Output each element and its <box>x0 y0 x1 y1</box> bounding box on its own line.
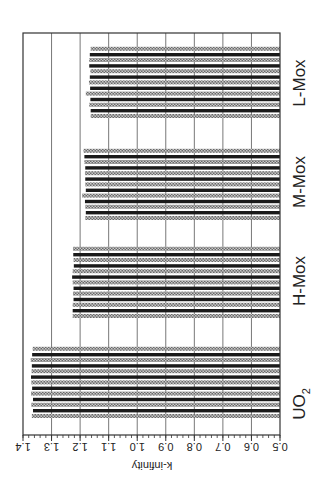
bar-h-mox <box>74 264 280 267</box>
bar-uo2 <box>33 347 280 351</box>
bar-h-mox <box>73 314 280 318</box>
bar-m-mox <box>85 216 280 220</box>
bar-m-mox <box>85 166 280 169</box>
bar-l-mox <box>90 87 280 90</box>
bar-uo2 <box>31 392 280 396</box>
bar-uo2 <box>31 375 280 378</box>
bar-h-mox <box>73 280 280 284</box>
tick-label: 0.7 <box>215 441 230 453</box>
bar-h-mox <box>73 303 280 307</box>
bar-l-mox <box>91 47 280 51</box>
y-axis-tick-labels: 1.41.31.21.11.00.90.80.70.60.5 <box>15 441 287 453</box>
bar-h-mox <box>72 275 280 278</box>
tick-label: 0.8 <box>187 441 202 453</box>
tick-label: 1.1 <box>101 441 116 453</box>
bar-h-mox <box>73 269 280 273</box>
bar-h-mox <box>73 247 280 251</box>
tick-label: 1.3 <box>44 441 59 453</box>
bars <box>31 47 280 418</box>
bar-m-mox <box>84 155 280 158</box>
bar-m-mox <box>82 194 280 198</box>
bar-uo2 <box>32 387 280 390</box>
bar-uo2 <box>33 409 280 412</box>
bar-l-mox <box>90 75 280 78</box>
bar-l-mox <box>89 103 280 107</box>
bar-uo2 <box>31 358 280 362</box>
bar-h-mox <box>74 298 280 301</box>
bar-m-mox <box>86 189 280 192</box>
bar-m-mox <box>85 205 280 209</box>
bar-uo2 <box>32 364 280 367</box>
bar-m-mox <box>85 171 280 175</box>
bar-h-mox <box>74 258 280 262</box>
category-label-l-mox: L-Mox <box>290 59 309 107</box>
bar-uo2 <box>31 380 280 384</box>
bar-h-mox <box>73 309 280 312</box>
bar-h-mox <box>73 253 280 256</box>
bar-l-mox <box>89 80 280 84</box>
bar-m-mox <box>86 211 280 214</box>
category-label-uo2: UO2 <box>290 388 312 420</box>
bar-m-mox <box>85 177 280 180</box>
bar-m-mox <box>84 149 280 153</box>
bar-uo2 <box>32 414 280 418</box>
tick-label: 1.2 <box>72 441 87 453</box>
category-label-m-mox: M-Mox <box>290 156 309 208</box>
rotated-chart: 1.41.31.21.11.00.90.80.70.60.5 k-infinit… <box>0 0 324 492</box>
bar-uo2 <box>31 403 280 407</box>
bar-l-mox <box>89 64 280 67</box>
tick-label: 1.4 <box>15 441 30 453</box>
bar-m-mox <box>85 182 280 186</box>
tick-label: 1.0 <box>130 441 145 453</box>
bar-m-mox <box>84 160 280 164</box>
bar-l-mox <box>91 109 280 112</box>
bar-chart: 1.41.31.21.11.00.90.80.70.60.5 k-infinit… <box>0 0 324 492</box>
bar-l-mox <box>89 58 280 62</box>
bar-h-mox <box>74 287 280 290</box>
bar-m-mox <box>85 200 280 203</box>
bar-uo2 <box>32 369 280 373</box>
category-label-h-mox: H-Mox <box>290 255 309 306</box>
bar-uo2 <box>33 398 280 401</box>
tick-label: 0.6 <box>244 441 259 453</box>
tick-label: 0.5 <box>272 441 287 453</box>
bar-l-mox <box>90 53 280 56</box>
bar-l-mox <box>86 92 280 96</box>
y-axis-title: k-infinity <box>131 460 172 472</box>
bar-l-mox <box>90 69 280 73</box>
y-axis-ticks <box>23 435 280 441</box>
bar-uo2 <box>32 353 280 356</box>
bar-l-mox <box>90 98 280 101</box>
bar-l-mox <box>91 114 280 118</box>
bar-h-mox <box>73 292 280 296</box>
tick-label: 0.9 <box>158 441 173 453</box>
